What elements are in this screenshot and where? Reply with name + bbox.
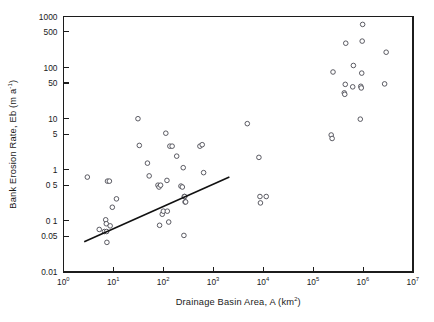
data-point xyxy=(85,175,90,180)
data-point xyxy=(110,205,115,210)
y-tick-label-9: 500 xyxy=(44,27,58,37)
data-point xyxy=(183,200,188,205)
data-point xyxy=(330,136,335,141)
data-point xyxy=(157,223,162,228)
y-axis-title-text: Bank Erosion Rate, Eb (m a-1) xyxy=(7,80,18,209)
data-point-markers xyxy=(85,22,388,245)
x-tick-label-7: 107 xyxy=(407,276,420,287)
scatter-plot: 100101102103104105106107 0.010.050 10 51… xyxy=(0,0,434,322)
data-point xyxy=(166,220,171,225)
data-point xyxy=(382,82,387,87)
data-point xyxy=(107,179,112,184)
data-point xyxy=(165,209,170,214)
figure-container: 100101102103104105106107 0.010.050 10 51… xyxy=(0,0,434,322)
data-point xyxy=(201,170,206,175)
y-tick-label-0: 0.01 xyxy=(41,267,58,277)
y-axis-title: Bank Erosion Rate, Eb (m a-1) xyxy=(7,80,18,209)
data-point xyxy=(136,116,141,121)
x-tick-label-0: 100 xyxy=(57,276,70,287)
data-point xyxy=(181,165,186,170)
data-point xyxy=(114,197,119,202)
y-tick-label-2: 0 1 xyxy=(46,216,58,226)
data-point xyxy=(359,86,364,91)
data-point xyxy=(147,174,152,179)
data-point xyxy=(97,227,102,232)
x-tick-label-6: 106 xyxy=(357,276,370,287)
data-point xyxy=(360,39,365,44)
data-point xyxy=(343,82,348,87)
x-tick-label-2: 102 xyxy=(157,276,170,287)
data-point xyxy=(342,92,347,97)
data-point xyxy=(182,233,187,238)
y-tick-label-8: 100 xyxy=(44,63,58,73)
data-point xyxy=(105,240,110,245)
data-point xyxy=(360,22,365,27)
y-axis-ticks xyxy=(64,17,69,273)
data-point xyxy=(358,117,363,122)
data-point xyxy=(158,183,163,188)
data-point xyxy=(258,201,263,206)
x-axis-tick-labels: 100101102103104105106107 xyxy=(57,276,419,287)
data-point xyxy=(108,224,113,229)
y-tick-label-7: 50 xyxy=(48,78,58,88)
data-point xyxy=(350,85,355,90)
data-point xyxy=(359,71,364,76)
x-axis-ticks xyxy=(64,267,414,272)
y-tick-label-6: 10 xyxy=(48,114,58,124)
data-point xyxy=(264,194,269,199)
y-tick-label-5: 5 xyxy=(53,129,58,139)
x-tick-label-4: 104 xyxy=(257,276,270,287)
data-point xyxy=(351,63,356,68)
x-axis-title-text: Drainage Basin Area, A (km2) xyxy=(176,296,301,307)
data-point xyxy=(331,70,336,75)
data-point xyxy=(200,142,205,147)
data-point xyxy=(164,131,169,136)
y-tick-label-1: 0.05 xyxy=(41,231,58,241)
y-axis-tick-labels: 0.010.050 10 51510501005001000 xyxy=(39,12,58,278)
data-point xyxy=(145,161,150,166)
plot-frame xyxy=(64,17,414,273)
data-point xyxy=(384,50,389,55)
y-tick-label-4: 1 xyxy=(53,165,58,175)
data-point xyxy=(257,155,262,160)
data-point xyxy=(165,178,170,183)
x-tick-label-1: 101 xyxy=(107,276,120,287)
y-tick-label-10: 1000 xyxy=(39,12,58,22)
x-axis-title: Drainage Basin Area, A (km2) xyxy=(176,296,301,307)
x-tick-label-5: 105 xyxy=(307,276,320,287)
x-tick-label-3: 103 xyxy=(207,276,220,287)
data-point xyxy=(245,121,250,126)
data-point xyxy=(180,185,185,190)
data-point xyxy=(170,144,175,149)
data-point xyxy=(137,143,142,148)
y-tick-label-3: 0 5 xyxy=(46,180,58,190)
plot-frame-rect xyxy=(64,17,414,273)
data-point xyxy=(343,41,348,46)
data-point xyxy=(258,194,263,199)
data-point xyxy=(174,154,179,159)
